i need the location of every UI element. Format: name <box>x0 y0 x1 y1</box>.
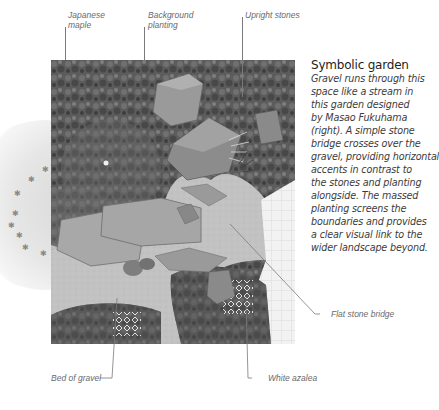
caption-title: Symbolic garden <box>311 58 429 72</box>
caption-line: accents in contrast to <box>311 163 429 176</box>
caption-line: alongside. The massed <box>311 189 429 202</box>
label-background-planting: Background planting <box>148 10 193 30</box>
caption-line: the stones and planting <box>311 176 429 189</box>
caption-line: (right). A simple stone <box>311 124 429 137</box>
caption-block: Symbolic garden Gravel runs through this… <box>311 58 429 254</box>
label-japanese-maple: Japanese maple <box>68 10 105 30</box>
label-flat-stone-bridge: Flat stone bridge <box>331 309 394 319</box>
label-bed-of-gravel: Bed of gravel <box>51 373 101 383</box>
caption-line: Gravel runs through this <box>311 72 429 85</box>
caption-line: gravel, providing horizontal <box>311 150 429 163</box>
caption-line: planting screens the <box>311 202 429 215</box>
caption-line: space like a stream in <box>311 85 429 98</box>
label-upright-stones: Upright stones <box>245 10 300 20</box>
caption-line: this garden designed <box>311 98 429 111</box>
caption-body: Gravel runs through this space like a st… <box>311 72 429 254</box>
caption-line: a clear visual link to the <box>311 228 429 241</box>
caption-line: wider landscape beyond. <box>311 241 429 254</box>
caption-line: by Masao Fukuhama <box>311 111 429 124</box>
label-white-azalea: White azalea <box>268 373 317 383</box>
caption-line: bridge crosses over the <box>311 137 429 150</box>
caption-line: boundaries and provides <box>311 215 429 228</box>
